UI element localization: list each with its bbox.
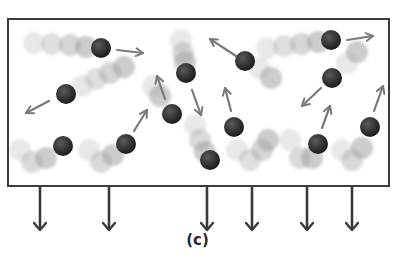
particle	[322, 68, 342, 88]
motion-arrow-icon	[322, 106, 330, 128]
gas-particles-diagram	[0, 0, 395, 263]
particle-trail-ghost	[113, 56, 135, 78]
particle	[176, 63, 196, 83]
particle	[116, 134, 136, 154]
particle-trail-ghost	[260, 67, 282, 89]
particle-trail-ghost	[149, 85, 171, 107]
figure-caption: (c)	[0, 231, 395, 249]
particle	[308, 134, 328, 154]
particles	[53, 30, 380, 170]
motion-arrow-icon	[192, 90, 201, 115]
motion-arrow-icon	[26, 101, 49, 113]
particle-trail-ghost	[35, 147, 57, 169]
motion-arrow-icon	[117, 50, 143, 53]
motion-arrow-icon	[302, 88, 321, 106]
motion-arrow-icon	[210, 39, 236, 56]
particle	[224, 117, 244, 137]
particle	[56, 84, 76, 104]
particle	[200, 150, 220, 170]
motion-arrow-icon	[374, 86, 383, 111]
particle-trail-ghost	[346, 41, 368, 63]
particle	[53, 136, 73, 156]
particle	[235, 51, 255, 71]
particle-trail-ghost	[351, 137, 373, 159]
motion-arrow-icon	[347, 36, 373, 40]
motion-arrow-icon	[225, 88, 231, 111]
exit-arrows	[40, 187, 352, 230]
particle-trail-ghost	[257, 129, 279, 151]
particle	[360, 117, 380, 137]
particle	[91, 38, 111, 58]
particle	[162, 104, 182, 124]
motion-arrow-icon	[134, 110, 147, 131]
particle	[321, 30, 341, 50]
